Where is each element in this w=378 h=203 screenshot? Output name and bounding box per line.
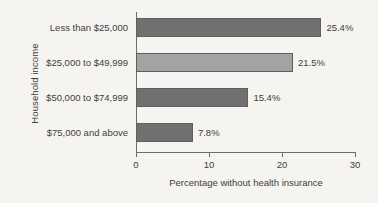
bar-value-label: 21.5% (298, 57, 325, 68)
bar-value-label: 7.8% (198, 127, 220, 138)
category-label: $25,000 to $49,999 (8, 57, 128, 68)
x-tick (355, 152, 356, 157)
x-tick-label: 10 (194, 159, 224, 170)
plot-area: 25.4% 21.5% 15.4% 7.8% (136, 12, 355, 152)
x-tick (282, 152, 283, 157)
bar (136, 18, 321, 37)
category-axis-labels: Less than $25,000 $25,000 to $49,999 $50… (36, 12, 132, 152)
x-tick-label: 0 (121, 159, 151, 170)
bar-chart: Household income Less than $25,000 $25,0… (0, 0, 378, 203)
x-axis-title: Percentage without health insurance (136, 177, 356, 188)
bar (136, 123, 193, 142)
x-tick-label: 30 (340, 159, 370, 170)
category-label: $75,000 and above (8, 127, 128, 138)
x-axis-line (136, 152, 356, 153)
category-label: Less than $25,000 (8, 22, 128, 33)
bar (136, 88, 248, 107)
x-tick-label: 20 (267, 159, 297, 170)
bar (136, 53, 293, 72)
bar-value-label: 15.4% (253, 92, 280, 103)
x-tick (136, 152, 137, 157)
bar-value-label: 25.4% (326, 22, 353, 33)
x-tick (209, 152, 210, 157)
category-label: $50,000 to $74,999 (8, 92, 128, 103)
